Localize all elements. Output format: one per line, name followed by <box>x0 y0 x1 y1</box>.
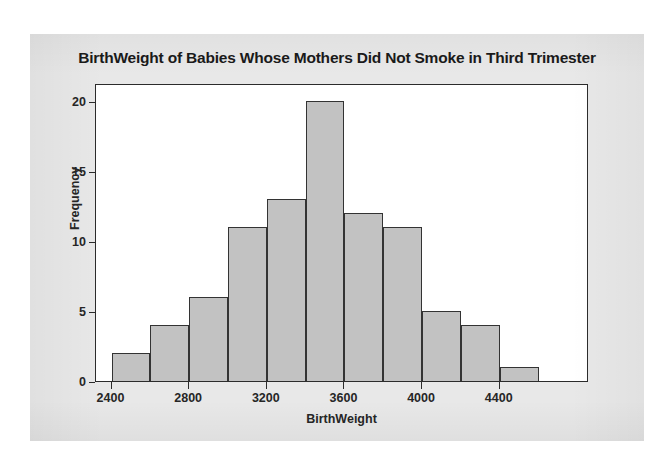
x-tick-mark <box>188 382 189 389</box>
figure-panel: BirthWeight of Babies Whose Mothers Did … <box>30 34 644 441</box>
plot-area <box>95 84 588 382</box>
x-tick-mark <box>266 382 267 389</box>
screenshot-root: BirthWeight of Babies Whose Mothers Did … <box>0 0 647 452</box>
histogram-bar <box>383 227 422 381</box>
x-tick-label: 2800 <box>174 391 202 405</box>
x-tick-label: 4000 <box>407 391 435 405</box>
y-tick-label: 15 <box>72 165 86 179</box>
histogram-bar <box>112 353 151 381</box>
x-tick-label: 4400 <box>485 391 513 405</box>
histogram-bar <box>150 325 189 381</box>
x-tick-mark <box>421 382 422 389</box>
x-tick-mark <box>499 382 500 389</box>
x-axis: 240028003200360040004400 BirthWeight <box>95 382 588 432</box>
histogram-bar <box>306 101 345 381</box>
y-tick-label: 5 <box>79 305 86 319</box>
x-tick-label: 3600 <box>330 391 358 405</box>
x-tick-label: 3200 <box>252 391 280 405</box>
histogram-bar <box>344 213 383 381</box>
y-tick-label: 10 <box>72 235 86 249</box>
histogram-bar <box>228 227 267 381</box>
histogram-bar <box>461 325 500 381</box>
x-tick-mark <box>343 382 344 389</box>
x-tick-label: 2400 <box>97 391 125 405</box>
y-tick-label: 0 <box>79 375 86 389</box>
chart-title: BirthWeight of Babies Whose Mothers Did … <box>30 49 644 67</box>
histogram-bar <box>500 367 539 381</box>
y-tick-label: 20 <box>72 95 86 109</box>
histogram-bars <box>96 85 587 381</box>
x-axis-title: BirthWeight <box>95 412 588 426</box>
x-tick-mark <box>111 382 112 389</box>
histogram-bar <box>267 199 306 381</box>
histogram-bar <box>189 297 228 381</box>
histogram-bar <box>422 311 461 381</box>
